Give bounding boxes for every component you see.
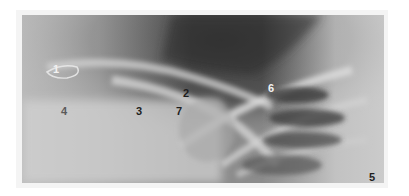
annotation-label-3: 3	[136, 106, 142, 117]
annotation-label-7: 7	[176, 106, 182, 117]
xray-image	[22, 15, 384, 183]
annotation-label-1: 1	[53, 64, 59, 75]
annotation-label-4: 4	[61, 106, 67, 117]
xray-graphic	[22, 15, 384, 183]
annotation-label-2: 2	[183, 88, 189, 99]
annotation-label-5: 5	[369, 172, 375, 183]
annotation-label-6: 6	[268, 83, 274, 94]
